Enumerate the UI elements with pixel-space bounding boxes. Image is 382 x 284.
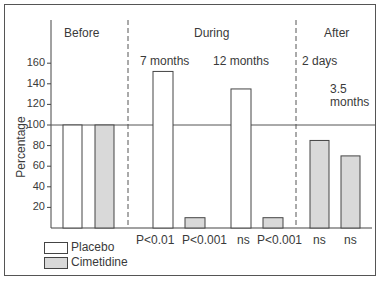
bar-cimetidine: [341, 156, 360, 228]
p-value-4: P<0.001: [257, 233, 302, 247]
y-tick-label: 160: [21, 56, 45, 68]
y-tick-label: 40: [21, 180, 45, 192]
bar-placebo: [63, 125, 82, 228]
group-label-12-months: 12 months: [213, 54, 269, 68]
section-during-label: During: [194, 26, 229, 40]
bar-cimetidine: [263, 218, 283, 228]
legend-label-cimetidine: Cimetidine: [71, 255, 128, 269]
y-tick-label: 60: [21, 159, 45, 171]
bar-placebo: [231, 89, 251, 228]
bar-cimetidine: [95, 125, 114, 228]
y-tick-label: 120: [21, 97, 45, 109]
y-tick-label: 20: [21, 200, 45, 212]
group-label-months: months: [330, 95, 369, 109]
section-after-label: After: [324, 26, 349, 40]
section-before-label: Before: [64, 26, 99, 40]
group-label-2-days: 2 days: [302, 54, 337, 68]
p-value-5: ns: [313, 233, 326, 247]
y-tick-label: 80: [21, 139, 45, 151]
group-label-7-months: 7 months: [140, 54, 189, 68]
p-value-1: P<0.01: [136, 233, 174, 247]
legend-swatch-placebo: [44, 242, 68, 254]
p-value-6: ns: [344, 233, 357, 247]
y-tick-label: 140: [21, 77, 45, 89]
group-label-3-5: 3.5: [330, 82, 347, 96]
bar-cimetidine: [310, 140, 329, 228]
p-value-2: P<0.001: [182, 233, 227, 247]
p-value-3: ns: [237, 233, 250, 247]
bar-cimetidine: [185, 218, 205, 228]
legend-swatch-cimetidine: [44, 257, 68, 269]
y-tick-label: 100: [21, 118, 45, 130]
legend-label-placebo: Placebo: [71, 240, 114, 254]
bar-placebo: [153, 71, 173, 228]
